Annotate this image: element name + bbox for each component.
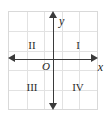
x-axis-label: x <box>98 61 103 73</box>
grid-line-vertical <box>79 12 80 109</box>
arrow-up-icon <box>49 11 57 18</box>
origin-label: O <box>42 61 50 72</box>
quadrant-label-ii: II <box>19 40 45 51</box>
y-axis <box>53 16 54 105</box>
arrow-down-icon <box>49 103 57 110</box>
quadrant-label-i: I <box>65 40 91 51</box>
quadrant-label-iv: IV <box>64 82 92 93</box>
grid-line-vertical <box>27 12 28 109</box>
plot-box: II I III IV y x O <box>8 11 98 110</box>
arrow-left-icon <box>8 54 15 62</box>
coordinate-plane-figure: II I III IV y x O <box>0 0 106 117</box>
quadrant-label-iii: III <box>17 82 47 93</box>
y-axis-label: y <box>59 15 64 27</box>
